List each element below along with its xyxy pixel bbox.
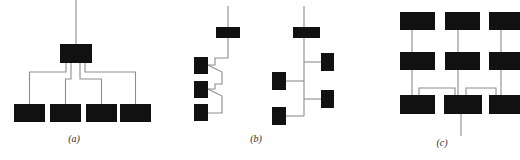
node-right-tap-4 bbox=[272, 107, 286, 125]
panel-c: (c) bbox=[400, 12, 520, 149]
caption-c: (c) bbox=[436, 137, 448, 149]
node-right-head bbox=[293, 27, 320, 38]
node-col-1-bottom bbox=[400, 95, 435, 114]
panel-a-nodes bbox=[14, 44, 151, 122]
node-left-head bbox=[216, 27, 240, 38]
node-col-1-top bbox=[400, 12, 435, 30]
edge-root-leaf-4 bbox=[85, 63, 136, 104]
edge-bottom-link-left bbox=[419, 88, 455, 95]
panel-b-nodes bbox=[194, 27, 334, 125]
panel-a: (a) bbox=[14, 0, 151, 145]
panel-b-edges bbox=[208, 6, 321, 116]
node-col-1-mid bbox=[400, 52, 435, 70]
figure-root: (a) bbox=[0, 0, 520, 160]
node-root bbox=[60, 44, 92, 63]
panel-c-edges bbox=[412, 30, 501, 136]
network-topology-figure: (a) bbox=[0, 0, 520, 160]
node-leaf-4 bbox=[120, 104, 151, 122]
panel-c-nodes bbox=[400, 12, 520, 114]
node-left-tap-2 bbox=[194, 81, 208, 98]
edge-left-spine-3 bbox=[208, 89, 222, 113]
node-leaf-2 bbox=[50, 104, 81, 122]
edge-root-leaf-1 bbox=[30, 63, 67, 104]
edge-left-spine-2 bbox=[208, 65, 222, 89]
panel-b: (b) bbox=[194, 6, 334, 145]
node-col-2-bottom bbox=[444, 95, 482, 114]
caption-b: (b) bbox=[250, 133, 262, 145]
node-col-3-mid bbox=[489, 52, 520, 70]
caption-a: (a) bbox=[68, 133, 80, 145]
node-leaf-1 bbox=[14, 104, 45, 122]
node-left-tap-1 bbox=[194, 57, 208, 74]
node-leaf-3 bbox=[86, 104, 117, 122]
node-col-3-top bbox=[489, 12, 520, 30]
node-col-2-mid bbox=[445, 52, 480, 70]
edge-bottom-link-right bbox=[466, 88, 496, 95]
node-col-3-bottom bbox=[489, 95, 520, 114]
edge-left-spine-1 bbox=[208, 38, 228, 65]
node-right-tap-3 bbox=[321, 90, 334, 108]
node-right-tap-2 bbox=[272, 72, 286, 90]
edge-root-leaf-3 bbox=[80, 63, 102, 104]
node-left-tap-3 bbox=[194, 104, 208, 121]
node-right-tap-1 bbox=[321, 53, 334, 71]
node-col-2-top bbox=[445, 12, 480, 30]
